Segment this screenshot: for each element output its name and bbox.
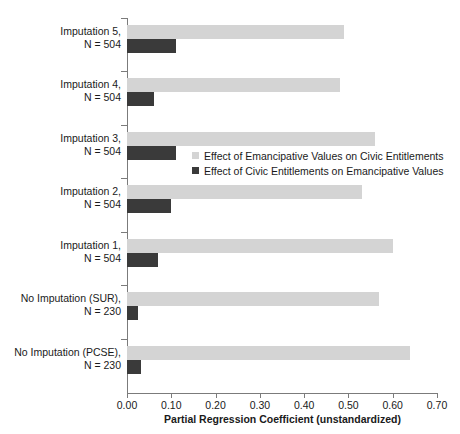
x-axis-line: [127, 393, 438, 394]
bar-emancipative-to-civic: [127, 346, 410, 360]
bar-civic-to-emancipative: [127, 39, 176, 53]
x-axis-tick: [393, 393, 394, 398]
bar-emancipative-to-civic: [127, 132, 375, 146]
x-axis-tick-label: 0.00: [102, 399, 152, 411]
legend-item: Effect of Emancipative Values on Civic E…: [192, 148, 443, 163]
y-axis-label-line: Imputation 5,: [0, 25, 121, 38]
y-axis-label-line: N = 504: [0, 38, 121, 51]
y-axis-label-line: N = 230: [0, 359, 121, 372]
bar-civic-to-emancipative: [127, 360, 141, 374]
x-axis-tick: [127, 393, 128, 398]
x-axis-tick-label: 0.50: [323, 399, 373, 411]
x-axis-tick-label: 0.60: [368, 399, 418, 411]
x-axis-tick: [260, 393, 261, 398]
bar-emancipative-to-civic: [127, 78, 340, 92]
x-axis-tick-label: 0.20: [191, 399, 241, 411]
x-axis-tick: [304, 393, 305, 398]
bar-group: [127, 232, 437, 285]
y-axis-label: Imputation 5,N = 504: [0, 25, 121, 51]
y-axis-label-line: Imputation 4,: [0, 78, 121, 91]
bar-group: [127, 178, 437, 231]
bar-group: [127, 339, 437, 392]
x-axis-tick-label: 0.40: [279, 399, 329, 411]
bar-civic-to-emancipative: [127, 146, 176, 160]
y-axis-label: Imputation 1,N = 504: [0, 239, 121, 265]
bar-group: [127, 285, 437, 338]
plot-area: [127, 18, 437, 392]
y-axis-label-line: N = 504: [0, 252, 121, 265]
x-axis-tick-label: 0.30: [235, 399, 285, 411]
y-axis-label: Imputation 4,N = 504: [0, 78, 121, 104]
y-axis-label-line: N = 504: [0, 145, 121, 158]
x-axis-tick-label: 0.10: [146, 399, 196, 411]
bar-emancipative-to-civic: [127, 185, 362, 199]
y-axis-label-line: N = 504: [0, 198, 121, 211]
legend-swatch-icon: [192, 167, 199, 174]
y-axis-label-line: Imputation 2,: [0, 185, 121, 198]
x-axis-tick: [437, 393, 438, 398]
y-axis-label: Imputation 2,N = 504: [0, 185, 121, 211]
y-axis-label-line: Imputation 1,: [0, 239, 121, 252]
legend-swatch-icon: [192, 152, 199, 159]
y-axis-label-line: No Imputation (SUR),: [0, 292, 121, 305]
y-axis-label: No Imputation (SUR),N = 230: [0, 292, 121, 318]
bar-group: [127, 71, 437, 124]
bar-civic-to-emancipative: [127, 199, 171, 213]
bar-civic-to-emancipative: [127, 306, 138, 320]
x-axis-tick: [348, 393, 349, 398]
bar-emancipative-to-civic: [127, 25, 344, 39]
bar-chart: Imputation 5,N = 504Imputation 4,N = 504…: [0, 0, 460, 434]
y-axis-label-line: Imputation 3,: [0, 132, 121, 145]
y-axis-label-line: N = 504: [0, 91, 121, 104]
bar-civic-to-emancipative: [127, 92, 154, 106]
y-axis-label: No Imputation (PCSE),N = 230: [0, 346, 121, 372]
x-axis-tick: [216, 393, 217, 398]
bar-group: [127, 18, 437, 71]
bar-emancipative-to-civic: [127, 239, 393, 253]
y-axis-category-labels: Imputation 5,N = 504Imputation 4,N = 504…: [0, 18, 121, 392]
y-axis-label: Imputation 3,N = 504: [0, 132, 121, 158]
legend-label: Effect of Emancipative Values on Civic E…: [204, 150, 443, 162]
y-axis-label-line: N = 230: [0, 305, 121, 318]
x-axis-title: Partial Regression Coefficient (unstanda…: [127, 413, 438, 425]
y-axis-label-line: No Imputation (PCSE),: [0, 346, 121, 359]
x-axis-tick: [171, 393, 172, 398]
bar-emancipative-to-civic: [127, 292, 379, 306]
legend-item: Effect of Civic Entitlements on Emancipa…: [192, 163, 443, 178]
legend-label: Effect of Civic Entitlements on Emancipa…: [204, 165, 443, 177]
chart-legend: Effect of Emancipative Values on Civic E…: [192, 148, 443, 178]
x-axis-tick-label: 0.70: [412, 399, 460, 411]
bar-civic-to-emancipative: [127, 253, 158, 267]
